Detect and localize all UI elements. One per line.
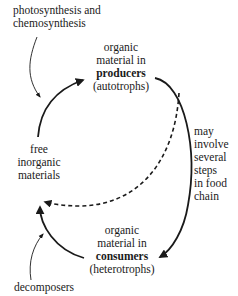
consumers-line2: material in bbox=[82, 237, 162, 250]
annotation-food-chain: may involve several steps in food chain bbox=[194, 125, 229, 203]
annotation-decomposers: decomposers bbox=[14, 281, 74, 294]
annotation-photosynthesis: photosynthesis and chemosynthesis bbox=[13, 4, 101, 30]
annotation-arrow-decomposers bbox=[30, 234, 43, 280]
food-chain-line1: may bbox=[194, 125, 229, 138]
consumers-paren: (heterotrophs) bbox=[82, 263, 162, 276]
food-chain-line5: in food bbox=[194, 177, 229, 190]
inorganic-line3: materials bbox=[8, 169, 70, 182]
annotation-photosynthesis-line2: chemosynthesis bbox=[13, 17, 101, 30]
consumers-line1: organic bbox=[82, 224, 162, 237]
food-chain-line3: several bbox=[194, 151, 229, 164]
arrow-consumers-to-inorganic bbox=[40, 207, 84, 258]
food-chain-line2: involve bbox=[194, 138, 229, 151]
consumers-title: consumers bbox=[82, 250, 162, 263]
food-chain-line4: steps bbox=[194, 164, 229, 177]
producers-line1: organic bbox=[88, 41, 154, 54]
node-producers: organic material in producers (autotroph… bbox=[88, 41, 154, 93]
annotation-arrow-photosynthesis bbox=[30, 37, 40, 97]
inorganic-line1: free bbox=[8, 143, 70, 156]
producers-paren: (autotrophs) bbox=[88, 80, 154, 93]
annotation-photosynthesis-line1: photosynthesis and bbox=[13, 4, 101, 17]
producers-title: producers bbox=[88, 67, 154, 80]
food-chain-line6: chain bbox=[194, 190, 229, 203]
inorganic-line2: inorganic bbox=[8, 156, 70, 169]
node-inorganic-materials: free inorganic materials bbox=[8, 143, 70, 182]
node-consumers: organic material in consumers (heterotro… bbox=[82, 224, 162, 276]
producers-line2: material in bbox=[88, 54, 154, 67]
arrow-inorganic-to-producers bbox=[38, 80, 83, 137]
